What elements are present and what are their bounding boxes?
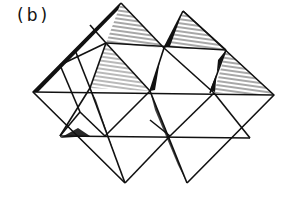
hatched-faces (90, 3, 274, 95)
polyhedra-drawing (0, 0, 290, 211)
